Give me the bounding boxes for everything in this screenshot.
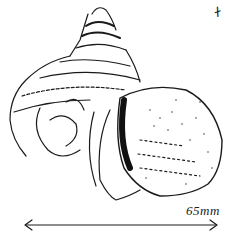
scale-bar-label: 65mm [186,203,220,219]
shell-illustration: ᚋ 65mm [0,0,234,238]
